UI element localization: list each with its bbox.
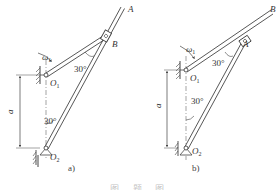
rod-o2-a <box>185 40 247 149</box>
angle-arc-top-a <box>85 52 94 57</box>
label-a-distance: a <box>5 109 15 114</box>
rod-o2-a <box>45 7 125 149</box>
label-b-o2: O2 <box>192 146 202 157</box>
caption-b: b) <box>192 163 200 173</box>
label-b-point-a: A <box>242 39 249 49</box>
label-a-o2: O2 <box>50 152 60 163</box>
label-b-angle-top: 30° <box>212 58 225 68</box>
pivot-o2-a <box>44 146 48 150</box>
label-a-angle-top: 30° <box>74 64 87 74</box>
label-b-angle-bottom: 30° <box>191 96 204 106</box>
figure-b: B A O1 O2 ω1 30° 30° a b) <box>153 4 276 173</box>
pivot-o1-a <box>44 73 48 77</box>
figure-a: A B O1 O2 ω1 30° 30° a a) <box>5 4 134 173</box>
angle-arc-bottom-b <box>186 116 194 120</box>
label-b-distance: a <box>153 103 163 108</box>
caption-a: a) <box>68 163 75 173</box>
dimension-a-b <box>164 70 180 148</box>
figure-caption: 图 — 题 — 图 <box>110 184 164 190</box>
slider-block-b-a <box>101 30 112 42</box>
pivot-o2-b <box>184 146 188 150</box>
ground-support-o2-b <box>175 141 192 156</box>
label-a-point-b: B <box>112 39 118 49</box>
label-b-point-b: B <box>270 4 276 14</box>
mechanism-diagram: A B O1 O2 ω1 30° 30° a a) <box>0 0 280 190</box>
crank-o1-b <box>186 10 273 72</box>
dimension-a-a <box>16 75 40 148</box>
label-a-omega: ω1 <box>42 52 51 63</box>
angle-arc-top-b <box>225 52 233 57</box>
pivot-o1-b <box>184 68 188 72</box>
label-b-o1: O1 <box>190 73 200 84</box>
label-a-o1: O1 <box>50 78 60 89</box>
label-a-point-a: A <box>127 4 134 14</box>
label-b-omega: ω1 <box>186 44 195 55</box>
label-a-angle-bottom: 30° <box>44 116 57 126</box>
